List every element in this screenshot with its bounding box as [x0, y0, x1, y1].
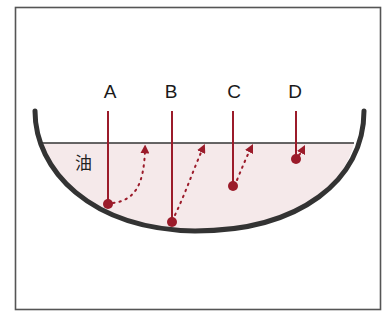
oil-pan-diagram: A B C D 油	[0, 0, 383, 317]
probe-label-b: B	[165, 81, 178, 102]
probe-label-d: D	[288, 81, 302, 102]
probe-label-c: C	[227, 81, 241, 102]
oil-label: 油	[75, 153, 92, 173]
probe-d-tip	[291, 154, 301, 164]
probe-c-tip	[228, 181, 238, 191]
probe-b-tip	[167, 217, 177, 227]
probe-label-a: A	[104, 81, 117, 102]
probe-a-tip	[103, 199, 113, 209]
